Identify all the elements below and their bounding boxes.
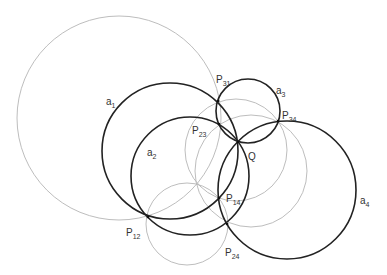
label-a1: a1 [106,96,116,109]
point-P12 [147,216,150,219]
thin-circle-c-mid1 [185,99,287,201]
miquel-circles-diagram: a1a2a3a4P31P34P23QP14P12P24 [0,0,387,275]
thin-circle-c-small [146,183,228,265]
labels: a1a2a3a4P31P34P23QP14P12P24 [106,74,370,260]
label-P12: P12 [126,227,141,240]
point-P34 [277,120,280,123]
point-P23 [218,123,221,126]
thin-circle-c-big [17,16,221,220]
point-P14 [218,197,221,200]
point-P24 [226,223,229,226]
label-Q: Q [248,151,256,162]
point-Q [237,141,240,144]
label-P34: P34 [282,110,297,123]
intersection-points [147,100,280,226]
label-P14: P14 [226,193,241,206]
label-a2: a2 [147,147,157,160]
label-P24: P24 [225,247,240,260]
label-a4: a4 [360,195,370,208]
label-P23: P23 [192,125,207,138]
label-a3: a3 [276,85,286,98]
label-P31: P31 [216,74,231,87]
point-P31 [217,100,220,103]
